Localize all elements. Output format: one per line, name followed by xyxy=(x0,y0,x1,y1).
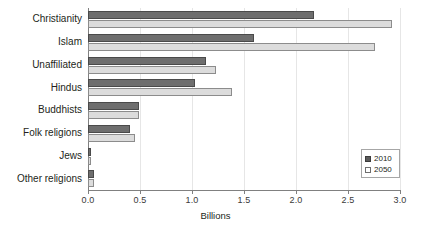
category-label: Christianity xyxy=(0,14,82,24)
x-axis-tick-label: 3.0 xyxy=(380,195,420,205)
bar-2050 xyxy=(88,88,232,96)
category-label: Folk religions xyxy=(0,128,82,138)
category-label: Buddhists xyxy=(0,105,82,115)
legend-swatch-2050-icon xyxy=(365,167,371,173)
bar-2010 xyxy=(88,79,195,87)
x-axis-tick-label: 0.5 xyxy=(120,195,160,205)
category-label: Islam xyxy=(0,37,82,47)
bar-2050 xyxy=(88,111,139,119)
category-label: Jews xyxy=(0,151,82,161)
x-axis-title: Billions xyxy=(0,210,431,221)
legend-label-2010: 2010 xyxy=(374,155,392,163)
chart-row: Islam xyxy=(0,31,431,54)
chart-row: Buddhists xyxy=(0,99,431,122)
category-label: Hindus xyxy=(0,83,82,93)
x-axis-tick-label: 1.5 xyxy=(224,195,264,205)
bar-2010 xyxy=(88,11,314,19)
bar-2050 xyxy=(88,20,392,28)
x-axis-tick-label: 2.5 xyxy=(328,195,368,205)
bar-2010 xyxy=(88,148,91,156)
legend[interactable]: 2010 2050 xyxy=(361,149,400,178)
bar-2010 xyxy=(88,34,254,42)
bar-2010 xyxy=(88,102,139,110)
category-label: Unaffiliated xyxy=(0,60,82,70)
category-label: Other religions xyxy=(0,174,82,184)
bar-2050 xyxy=(88,66,216,74)
x-axis-tick-label: 2.0 xyxy=(276,195,316,205)
bar-2010 xyxy=(88,57,206,65)
bar-2050 xyxy=(88,179,94,187)
legend-label-2050: 2050 xyxy=(374,166,392,174)
legend-item-2050[interactable]: 2050 xyxy=(365,164,399,175)
chart-row: Hindus xyxy=(0,76,431,99)
x-axis-line xyxy=(88,190,401,191)
chart-row: Unaffiliated xyxy=(0,54,431,77)
bar-chart: 0.00.51.01.52.02.53.0 ChristianityIslamU… xyxy=(0,0,431,235)
chart-row: Folk religions xyxy=(0,122,431,145)
legend-item-2010[interactable]: 2010 xyxy=(365,153,399,164)
bar-2010 xyxy=(88,125,130,133)
bar-2050 xyxy=(88,43,375,51)
bar-2010 xyxy=(88,170,94,178)
legend-swatch-2010-icon xyxy=(365,156,371,162)
chart-row: Christianity xyxy=(0,8,431,31)
bar-2050 xyxy=(88,157,91,165)
x-axis-tick-label: 0.0 xyxy=(68,195,108,205)
x-axis-tick-label: 1.0 xyxy=(172,195,212,205)
bar-2050 xyxy=(88,134,135,142)
